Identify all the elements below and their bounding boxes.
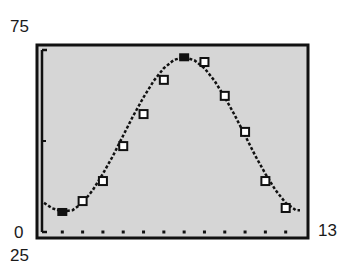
x-tick-dot [244,231,247,234]
data-point [200,58,208,66]
x-tick-dot [203,231,206,234]
x-tick-dot [142,231,145,234]
data-point [160,76,168,84]
data-point [140,110,148,118]
extremum-point [179,53,189,61]
x-tick-dot [162,231,165,234]
x-tick-dot [264,231,267,234]
extremum-point [57,208,67,216]
x-tick-dot [183,231,186,234]
x-tick-dot [61,231,64,234]
data-point [99,177,107,185]
data-point [261,177,269,185]
data-point [79,197,87,205]
x-tick-dot [223,231,226,234]
data-point [282,204,290,212]
x-tick-dot [101,231,104,234]
x-tick-dot [81,231,84,234]
data-point [119,142,127,150]
x-tick-dot [284,231,287,234]
screen-frame [37,45,308,238]
x-tick-dot [122,231,125,234]
data-point [241,128,249,136]
calculator-graph-screen [0,0,360,269]
data-point [221,92,229,100]
